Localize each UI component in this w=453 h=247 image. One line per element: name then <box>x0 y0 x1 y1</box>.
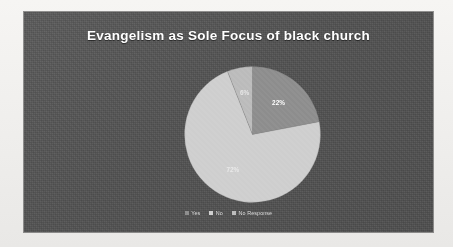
legend-swatch-no <box>209 211 213 215</box>
chart-title: Evangelism as Sole Focus of black church <box>24 28 433 43</box>
screenshot-root: Evangelism as Sole Focus of black church… <box>0 0 453 247</box>
pie-svg: 22%72%6% <box>184 66 321 203</box>
pie-chart-graphic: 22%72%6% <box>184 66 321 203</box>
legend-item-yes[interactable]: Yes <box>185 210 201 216</box>
pie-label-no: 72% <box>226 166 239 173</box>
pie-label-yes: 22% <box>272 99 285 106</box>
pie-label-no-response: 6% <box>240 89 250 96</box>
legend-label-no-response: No Response <box>238 210 272 216</box>
pie-slice-group <box>185 67 321 203</box>
legend-label-yes: Yes <box>191 210 200 216</box>
chart-legend: Yes No No Response <box>24 210 433 216</box>
legend-item-no-response[interactable]: No Response <box>232 210 272 216</box>
legend-label-no: No <box>216 210 223 216</box>
legend-swatch-no-response <box>232 211 236 215</box>
pie-chart-panel: Evangelism as Sole Focus of black church… <box>24 12 433 232</box>
legend-item-no[interactable]: No <box>209 210 223 216</box>
legend-swatch-yes <box>185 211 189 215</box>
